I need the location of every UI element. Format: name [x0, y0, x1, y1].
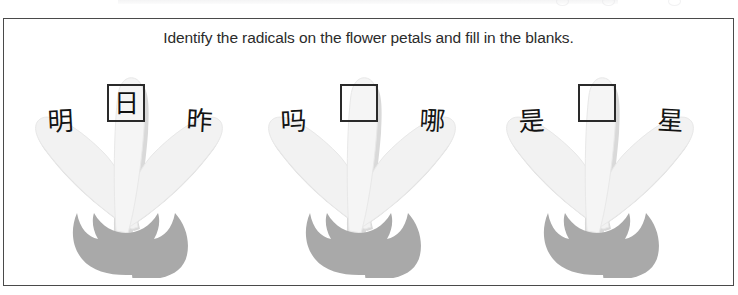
- flowers-row: 明 日 昨 吗: [4, 63, 733, 278]
- scan-artifact-dots: [556, 0, 706, 5]
- petal-char-right: 星: [656, 107, 683, 134]
- petal-char-left: 明: [47, 107, 74, 134]
- petal-char-left: 是: [518, 107, 545, 134]
- flower-group-2: 吗 哪: [247, 63, 477, 278]
- answer-box-center[interactable]: [340, 84, 378, 122]
- petal-char-left: 吗: [280, 107, 307, 134]
- answer-box-center[interactable]: [578, 84, 616, 122]
- flower-group-3: 是 星: [485, 63, 715, 278]
- worksheet-page: Identify the radicals on the flower peta…: [0, 0, 738, 295]
- petal-char-right: 昨: [185, 107, 212, 134]
- answer-box-char: 日: [114, 91, 139, 116]
- worksheet-frame: Identify the radicals on the flower peta…: [3, 18, 734, 286]
- scan-artifact-strip: [118, 0, 618, 4]
- flower-group-1: 明 日 昨: [14, 63, 244, 278]
- petal-char-right: 哪: [418, 107, 445, 134]
- instruction-text: Identify the radicals on the flower peta…: [4, 29, 733, 47]
- answer-box-center[interactable]: 日: [107, 84, 145, 122]
